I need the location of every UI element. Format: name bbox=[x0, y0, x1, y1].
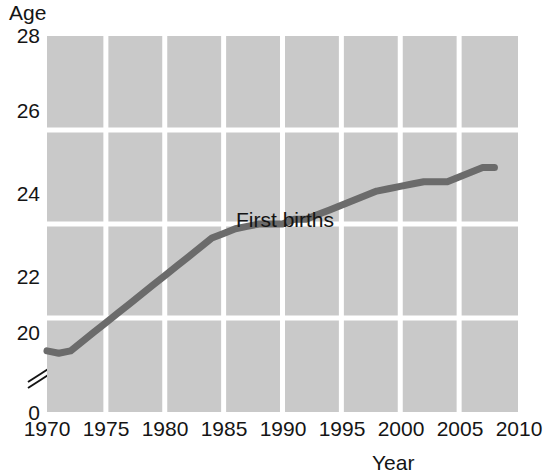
x-tick-label-2005: 2005 bbox=[429, 418, 491, 439]
x-axis-title: Year bbox=[372, 452, 414, 473]
y-tick-label-24: 24 bbox=[0, 183, 40, 204]
y-axis-title: Age bbox=[9, 2, 46, 23]
y-tick-label-28: 28 bbox=[0, 25, 40, 46]
x-tick-label-1990: 1990 bbox=[252, 418, 314, 439]
x-tick-label-1995: 1995 bbox=[311, 418, 373, 439]
x-tick-label-2000: 2000 bbox=[370, 418, 432, 439]
x-tick-label-1985: 1985 bbox=[193, 418, 255, 439]
y-tick-label-26: 26 bbox=[0, 100, 40, 121]
series-line-first-births bbox=[47, 168, 494, 354]
x-tick-label-2010: 2010 bbox=[488, 418, 547, 439]
x-tick-label-1970: 1970 bbox=[16, 418, 78, 439]
x-tick-label-1975: 1975 bbox=[75, 418, 137, 439]
y-tick-label-20: 20 bbox=[0, 322, 40, 343]
x-tick-label-1980: 1980 bbox=[134, 418, 196, 439]
series-annotation-first-births: First births bbox=[236, 209, 334, 230]
y-tick-label-22: 22 bbox=[0, 266, 40, 287]
